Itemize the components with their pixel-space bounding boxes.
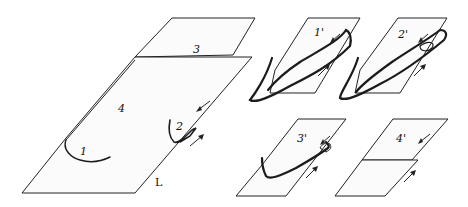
slip-diagram: 3 4 1 2 L 1' 2' 3'	[0, 0, 468, 207]
panel-2-prime: 2'	[340, 18, 447, 99]
main-slip-plane	[22, 57, 252, 193]
label-2-prime: 2'	[397, 28, 408, 41]
label-3: 3	[193, 43, 200, 56]
panel-4-prime-lower	[335, 160, 418, 196]
label-L: L	[155, 176, 163, 189]
label-1-prime: 1'	[314, 26, 324, 39]
label-4-prime: 4'	[395, 132, 406, 145]
label-3-prime: 3'	[297, 132, 307, 145]
label-1: 1	[80, 145, 87, 158]
panel-3-prime: 3'	[236, 119, 346, 196]
label-4: 4	[117, 102, 125, 115]
panel-4-prime: 4'	[335, 119, 448, 196]
main-panel: 3 4 1 2 L	[22, 18, 255, 193]
panel-3-prime-sheet	[236, 119, 346, 196]
label-2: 2	[175, 120, 183, 133]
